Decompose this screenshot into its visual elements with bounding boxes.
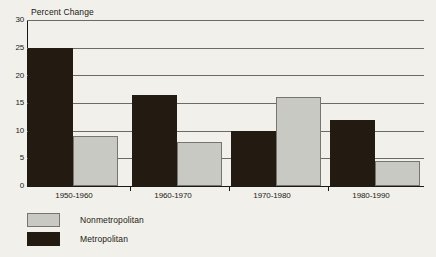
- y-tick-label-20: 20: [2, 72, 24, 80]
- chart-title: Percent Change: [31, 7, 94, 17]
- chart-legend: Nonmetropolitan Metropolitan: [27, 210, 144, 248]
- chart-page: Percent Change 30 25 20 15 10 5 0: [0, 0, 436, 257]
- bar-nonmetropolitan-1960-1970: [177, 142, 222, 186]
- bar-metropolitan-1950-1960: [28, 48, 73, 186]
- bar-nonmetropolitan-1950-1960: [73, 136, 118, 186]
- bar-metropolitan-1970-1980: [231, 131, 276, 186]
- x-label-1970-1980: 1970-1980: [227, 191, 317, 200]
- legend-item-nonmetropolitan: Nonmetropolitan: [27, 210, 144, 229]
- legend-label-nonmetropolitan: Nonmetropolitan: [80, 215, 144, 225]
- y-tick-label-5: 5: [2, 154, 24, 162]
- gridline-25: [27, 48, 424, 49]
- gray-swatch-icon: [27, 213, 60, 227]
- gridline-20: [27, 75, 424, 76]
- y-tick-label-25: 25: [2, 44, 24, 52]
- gridline-15: [27, 103, 424, 104]
- y-axis-labels: 30 25 20 15 10 5 0: [0, 0, 24, 200]
- bar-nonmetropolitan-1970-1980: [276, 97, 321, 186]
- bar-chart: Percent Change 30 25 20 15 10 5 0: [0, 0, 436, 200]
- bar-nonmetropolitan-1980-1990: [375, 161, 420, 186]
- axis-baseline: [27, 186, 424, 187]
- x-label-1960-1970: 1960-1970: [128, 191, 218, 200]
- y-tick-label-30: 30: [2, 16, 24, 24]
- bar-metropolitan-1960-1970: [132, 95, 177, 186]
- gridline-30: [27, 20, 424, 21]
- dark-swatch-icon: [27, 232, 60, 246]
- legend-item-metropolitan: Metropolitan: [27, 229, 144, 248]
- plot-area: [27, 20, 424, 186]
- x-label-1950-1960: 1950-1960: [29, 191, 119, 200]
- bar-metropolitan-1980-1990: [330, 120, 375, 186]
- legend-label-metropolitan: Metropolitan: [80, 234, 128, 244]
- y-tick-label-15: 15: [2, 99, 24, 107]
- x-label-1980-1990: 1980-1990: [326, 191, 416, 200]
- y-tick-label-10: 10: [2, 127, 24, 135]
- y-tick-label-0: 0: [2, 182, 24, 190]
